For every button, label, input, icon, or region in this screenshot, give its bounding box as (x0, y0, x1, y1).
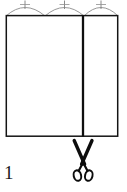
figure-number-label: 1 (4, 163, 14, 182)
fabric-panel-rectangle (6, 16, 117, 137)
scissors-handle-left (73, 170, 83, 182)
diagram-svg (0, 0, 127, 192)
arc-left (6, 8, 45, 17)
figure-canvas: 1 (0, 0, 127, 192)
scissors-icon (73, 140, 94, 182)
scissors-handle-right (84, 170, 94, 182)
